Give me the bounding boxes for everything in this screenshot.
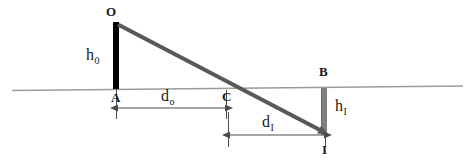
label-point-o: O	[106, 5, 116, 18]
diagram-canvas	[0, 0, 470, 168]
label-object-height-base: h	[86, 46, 94, 63]
label-image-height-base: h	[335, 97, 343, 114]
label-image-distance: dI	[262, 114, 273, 130]
label-image-height-subscript: I	[344, 106, 347, 117]
optics-ray-diagram: O A C B I h0 hI do dI	[0, 0, 470, 168]
object-arrow-bar	[113, 22, 119, 89]
label-object-distance-base: d	[161, 87, 169, 104]
label-image-height: hI	[335, 98, 346, 114]
label-image-distance-base: d	[262, 113, 270, 130]
label-object-distance: do	[161, 88, 174, 104]
label-object-distance-subscript: o	[170, 96, 175, 107]
label-point-c: C	[222, 90, 231, 103]
label-point-a: A	[111, 91, 120, 104]
label-object-height: h0	[86, 47, 99, 63]
label-point-b: B	[319, 65, 328, 78]
principal-ray-line	[118, 25, 320, 131]
label-object-height-subscript: 0	[95, 55, 100, 66]
label-point-i: I	[322, 143, 327, 156]
label-image-distance-subscript: I	[271, 122, 274, 133]
